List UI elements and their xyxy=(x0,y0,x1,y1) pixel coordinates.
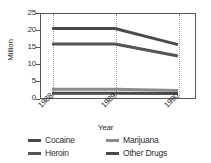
legend-swatch-other-drugs xyxy=(106,152,119,155)
chart-legend: Cocaine Marijuana Heroin Other Drugs xyxy=(28,134,204,160)
series-line-marijuana xyxy=(52,89,178,90)
series-line-cocaine xyxy=(52,28,178,44)
legend-label-cocaine: Cocaine xyxy=(45,136,75,145)
legend-item-other-drugs: Other Drugs xyxy=(106,149,204,158)
legend-swatch-cocaine xyxy=(28,139,41,142)
legend-swatch-marijuana xyxy=(106,139,119,142)
legend-label-heroin: Heroin xyxy=(45,149,69,158)
legend-swatch-heroin xyxy=(28,152,41,155)
legend-item-heroin: Heroin xyxy=(28,149,106,158)
x-axis-label: Year xyxy=(0,124,211,132)
legend-label-other-drugs: Other Drugs xyxy=(123,149,167,158)
legend-label-marijuana: Marijuana xyxy=(123,136,159,145)
series-line-heroin xyxy=(52,44,178,56)
legend-item-cocaine: Cocaine xyxy=(28,136,106,145)
chart-figure: 25 20 15 10 5 0 Million 1988 1989 1990 Y… xyxy=(0,0,211,163)
legend-item-marijuana: Marijuana xyxy=(106,136,204,145)
